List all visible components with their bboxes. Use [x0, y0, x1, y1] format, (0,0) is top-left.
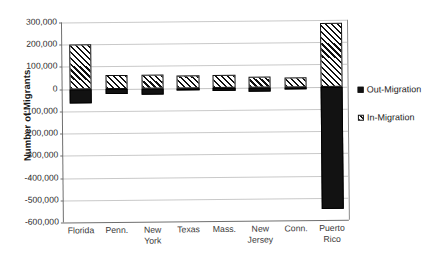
- chart-legend: Out-Migration In-Migration: [358, 84, 443, 141]
- chart-skew-wrapper: Number of Migrants 300,000200,000100,000…: [0, 0, 443, 256]
- y-axis-tick-label: -500,000: [13, 195, 59, 204]
- bar-in-migration: [177, 76, 199, 88]
- bar-out-migration: [141, 88, 163, 95]
- bar-out-migration: [177, 88, 199, 90]
- bar-in-migration: [249, 76, 271, 87]
- bar-in-migration: [69, 44, 92, 89]
- bar-out-migration: [69, 89, 91, 104]
- legend-label-out-migration: Out-Migration: [367, 84, 422, 95]
- bar-out-migration: [321, 86, 344, 208]
- legend-item-out-migration: Out-Migration: [358, 84, 443, 95]
- legend-swatch-in-migration-icon: [358, 115, 364, 121]
- y-axis-tick-label: 0: [12, 84, 58, 93]
- y-axis-tick-label: 100,000: [11, 62, 57, 71]
- y-axis-tick-label: -100,000: [12, 106, 58, 115]
- y-axis-tick-labels: 300,000200,000100,0000-100,000-200,000-3…: [7, 2, 59, 256]
- y-axis-tick-label: -600,000: [13, 218, 59, 227]
- y-axis-tick-label: -300,000: [12, 151, 58, 160]
- y-axis-tick-label: 300,000: [11, 18, 57, 27]
- bar-series-group: [62, 20, 349, 223]
- bar-in-migration: [213, 75, 235, 87]
- x-axis-category-labels: FloridaPenn.New YorkTexasMass.New Jersey…: [63, 223, 350, 256]
- bar-in-migration: [105, 75, 127, 89]
- bar-out-migration: [213, 88, 235, 92]
- x-axis-category-label: Puerto Rico: [310, 223, 354, 244]
- bar-in-migration: [141, 75, 163, 89]
- y-axis-tick-label: -200,000: [12, 129, 58, 138]
- migration-bar-chart: Number of Migrants 300,000200,000100,000…: [0, 0, 443, 256]
- legend-label-in-migration: In-Migration: [367, 112, 415, 122]
- bar-out-migration: [285, 87, 307, 89]
- y-axis-tick-label: 200,000: [11, 40, 57, 49]
- bar-out-migration: [105, 89, 127, 95]
- y-axis-tick: [60, 223, 64, 224]
- plot-area: [61, 20, 350, 223]
- legend-item-in-migration: In-Migration: [358, 112, 443, 123]
- bar-out-migration: [249, 87, 271, 91]
- y-axis-tick-label: -400,000: [12, 173, 58, 182]
- bar-in-migration: [320, 23, 343, 87]
- legend-swatch-out-migration-icon: [358, 87, 364, 93]
- bar-in-migration: [285, 77, 307, 87]
